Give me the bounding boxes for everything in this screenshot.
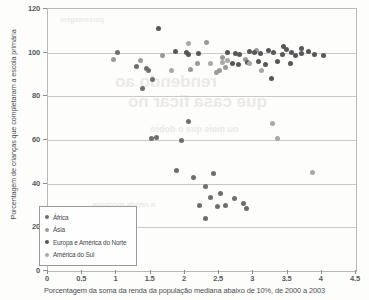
- data-point: [134, 64, 139, 69]
- data-point: [196, 51, 201, 56]
- data-point: [203, 216, 208, 221]
- data-point: [191, 175, 196, 180]
- data-point: [280, 52, 285, 57]
- x-tick-label: 3: [237, 274, 267, 283]
- x-tick-mark: [81, 270, 82, 274]
- data-point: [160, 53, 165, 58]
- x-tick-label: 1: [100, 274, 130, 283]
- data-point: [115, 50, 120, 55]
- data-point: [230, 61, 235, 66]
- data-point: [244, 206, 249, 211]
- data-point: [179, 138, 184, 143]
- y-tick-label: 20: [14, 222, 40, 231]
- data-point: [174, 168, 179, 173]
- x-tick-mark: [115, 270, 116, 274]
- data-point: [288, 61, 293, 66]
- data-point: [186, 41, 191, 46]
- data-point: [247, 61, 252, 66]
- y-tick-mark: [43, 8, 47, 9]
- data-point: [186, 52, 191, 57]
- legend-item[interactable]: Europa e América do Norte: [45, 236, 132, 249]
- data-point: [215, 204, 220, 209]
- y-tick-label: 60: [14, 135, 40, 144]
- data-point: [156, 26, 161, 31]
- x-tick-label: 3.5: [272, 274, 302, 283]
- data-point: [269, 76, 274, 81]
- x-tick-label: 4.5: [340, 274, 369, 283]
- legend-marker-icon: [45, 228, 49, 232]
- chart-legend: ÁfricaÁsiaEuropa e América do NorteAméri…: [39, 206, 137, 266]
- y-tick-label: 120: [14, 4, 40, 13]
- data-point: [266, 48, 271, 53]
- data-point: [223, 65, 228, 70]
- legend-item-label: América do Sul: [53, 251, 94, 258]
- legend-item[interactable]: América do Sul: [45, 249, 132, 262]
- x-tick-label: 2.5: [203, 274, 233, 283]
- legend-item-label: África: [53, 214, 68, 221]
- y-tick-mark: [43, 52, 47, 53]
- gridline-horizontal: [48, 96, 356, 97]
- x-tick-mark: [252, 270, 253, 274]
- data-point: [188, 67, 193, 72]
- data-point: [225, 58, 230, 63]
- data-point: [203, 184, 208, 189]
- y-tick-mark: [43, 95, 47, 96]
- data-point: [154, 135, 159, 140]
- legend-marker-icon: [45, 240, 49, 244]
- data-point: [299, 46, 304, 51]
- data-point: [195, 61, 200, 66]
- data-point: [197, 203, 202, 208]
- data-point: [281, 44, 286, 49]
- data-point: [186, 119, 191, 124]
- gridline-horizontal: [48, 140, 356, 141]
- y-tick-label: 80: [14, 91, 40, 100]
- x-tick-mark: [47, 270, 48, 274]
- x-tick-mark: [184, 270, 185, 274]
- data-point: [223, 203, 228, 208]
- x-tick-mark: [355, 270, 356, 274]
- data-point: [241, 201, 246, 206]
- data-point: [293, 53, 298, 58]
- x-tick-label: 2: [169, 274, 199, 283]
- data-point: [299, 51, 304, 56]
- data-point: [146, 68, 151, 73]
- data-point: [214, 70, 219, 75]
- data-point: [263, 62, 268, 67]
- legend-item[interactable]: Ásia: [45, 224, 132, 237]
- data-point: [312, 52, 317, 57]
- data-point: [270, 121, 275, 126]
- data-point: [271, 50, 276, 55]
- data-point: [211, 171, 216, 176]
- legend-marker-icon: [45, 215, 49, 219]
- y-tick-label: 100: [14, 48, 40, 57]
- scatter-chart-figure: rendendo ao que casa ficar no ou mais qu…: [0, 0, 369, 300]
- x-tick-mark: [150, 270, 151, 274]
- x-tick-mark: [287, 270, 288, 274]
- legend-item-label: Europa e América do Norte: [53, 239, 126, 246]
- data-point: [236, 62, 241, 67]
- legend-item[interactable]: África: [45, 211, 132, 224]
- data-point: [275, 59, 280, 64]
- data-point: [169, 68, 174, 73]
- data-point: [111, 57, 116, 62]
- data-point: [140, 86, 145, 91]
- data-point: [138, 58, 143, 63]
- data-point: [306, 49, 311, 54]
- x-tick-mark: [321, 270, 322, 274]
- data-point: [258, 51, 263, 56]
- data-point: [256, 59, 261, 64]
- data-point: [208, 61, 213, 66]
- x-tick-label: 0.5: [66, 274, 96, 283]
- y-tick-label: 40: [14, 179, 40, 188]
- data-point: [218, 191, 223, 196]
- legend-item-label: Ásia: [53, 226, 65, 233]
- data-point: [225, 50, 230, 55]
- x-axis-label: Porcentagem da soma da renda da populaçã…: [0, 286, 369, 295]
- gridline-horizontal: [48, 184, 356, 185]
- data-point: [321, 53, 326, 58]
- data-point: [232, 196, 237, 201]
- data-point: [310, 170, 315, 175]
- data-point: [237, 52, 242, 57]
- y-tick-mark: [43, 183, 47, 184]
- x-tick-label: 1.5: [135, 274, 165, 283]
